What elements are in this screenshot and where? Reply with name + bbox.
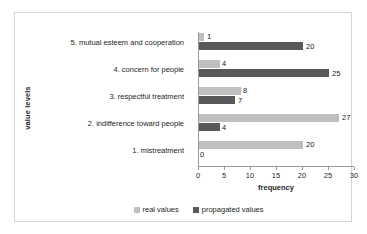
bar-real-3 bbox=[199, 87, 241, 95]
bar-propagated-3 bbox=[199, 96, 235, 104]
x-tick-label-15: 15 bbox=[267, 171, 285, 180]
x-tick-mark-10 bbox=[250, 167, 251, 170]
legend-item-propagated-values: propagated values bbox=[193, 205, 264, 214]
bar-propagated-5 bbox=[199, 42, 303, 50]
category-label-5: 5. mutual esteem and cooperation bbox=[39, 38, 184, 48]
x-axis-ticks: 0 5 10 15 20 25 30 bbox=[198, 167, 360, 181]
x-tick-mark-15 bbox=[276, 167, 277, 170]
category-axis-labels: 5. mutual esteem and cooperation 4. conc… bbox=[39, 32, 184, 166]
bar-value-real-4: 4 bbox=[222, 59, 226, 68]
bar-real-5 bbox=[199, 33, 204, 41]
x-tick-mark-20 bbox=[302, 167, 303, 170]
x-tick-label-0: 0 bbox=[189, 171, 207, 180]
bar-value-propagated-3: 7 bbox=[238, 96, 242, 105]
bar-value-real-5: 1 bbox=[207, 32, 211, 41]
bar-real-1 bbox=[199, 141, 303, 149]
category-label-3: 3. respectful treatment bbox=[39, 92, 184, 102]
x-tick-mark-5 bbox=[224, 167, 225, 170]
category-label-4: 4. concern for people bbox=[39, 65, 184, 75]
chart-legend: real values propagated values bbox=[15, 205, 367, 214]
plot-area: 1 20 4 25 8 7 27 4 20 0 bbox=[198, 32, 354, 166]
bar-real-2 bbox=[199, 114, 339, 122]
legend-label-real-values: real values bbox=[143, 205, 179, 214]
bar-value-real-3: 8 bbox=[243, 86, 247, 95]
x-tick-label-20: 20 bbox=[293, 171, 311, 180]
x-tick-mark-30 bbox=[354, 167, 355, 170]
legend-item-real-values: real values bbox=[134, 205, 179, 214]
legend-swatch-icon-propagated-values bbox=[193, 207, 199, 213]
bar-value-propagated-1: 0 bbox=[200, 150, 204, 159]
bar-value-real-1: 20 bbox=[306, 140, 314, 149]
x-tick-label-25: 25 bbox=[319, 171, 337, 180]
x-tick-mark-0 bbox=[198, 167, 199, 170]
bar-propagated-4 bbox=[199, 69, 329, 77]
x-tick-label-5: 5 bbox=[215, 171, 233, 180]
bar-real-4 bbox=[199, 60, 220, 68]
bar-value-real-2: 27 bbox=[342, 113, 350, 122]
x-axis-title: frequency bbox=[198, 183, 354, 192]
legend-label-propagated-values: propagated values bbox=[202, 205, 264, 214]
bar-value-propagated-4: 25 bbox=[332, 69, 340, 78]
legend-swatch-icon-real-values bbox=[134, 207, 140, 213]
chart-frame: value levels 5. mutual esteem and cooper… bbox=[14, 12, 352, 222]
category-label-1: 1. mistreatment bbox=[39, 146, 184, 156]
x-tick-mark-25 bbox=[328, 167, 329, 170]
x-tick-label-30: 30 bbox=[345, 171, 363, 180]
bar-value-propagated-5: 20 bbox=[306, 42, 314, 51]
category-label-2: 2. indifference toward people bbox=[39, 119, 184, 129]
y-axis-title: value levels bbox=[21, 73, 35, 143]
x-tick-label-10: 10 bbox=[241, 171, 259, 180]
bar-value-propagated-2: 4 bbox=[222, 123, 226, 132]
bar-propagated-2 bbox=[199, 123, 220, 131]
